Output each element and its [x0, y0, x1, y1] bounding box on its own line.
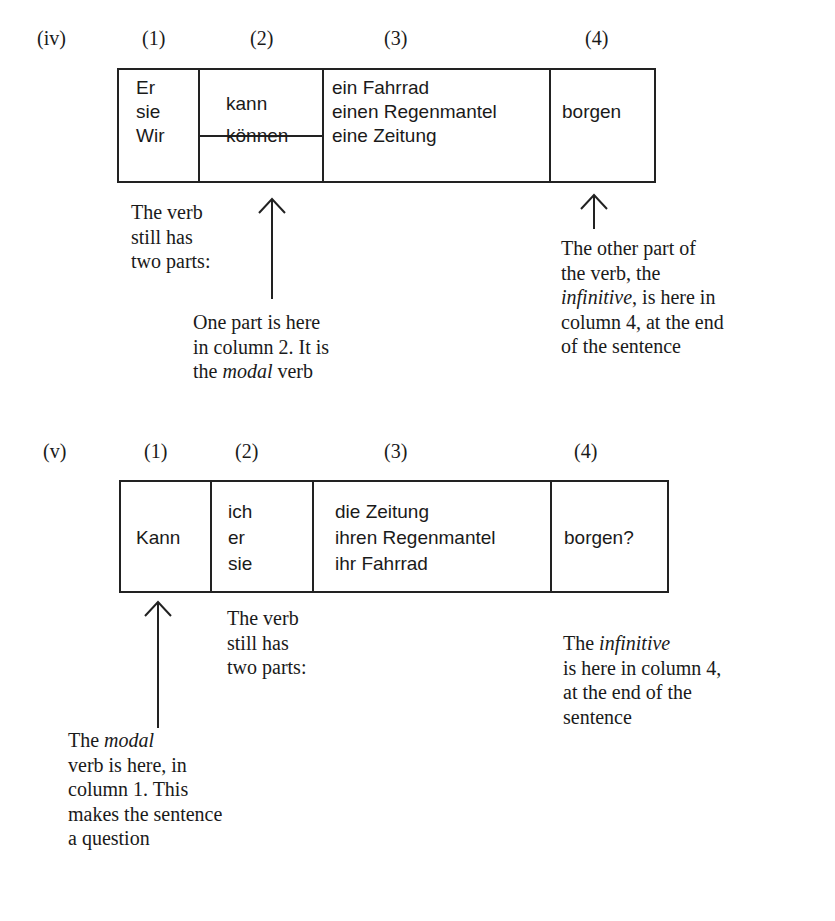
modal-kann: kann	[226, 92, 267, 115]
subject-wir: Wir	[136, 124, 164, 147]
column-divider	[549, 70, 551, 181]
object-regenmantel: einen Regenmantel	[332, 100, 497, 123]
infinitive-borgen: borgen	[562, 100, 621, 123]
note-modal-column-2: One part is here in column 2. It is the …	[193, 310, 329, 384]
column-header-2: (2)	[235, 440, 258, 463]
object-zeitung: die Zeitung	[335, 500, 429, 523]
column-header-4: (4)	[585, 27, 608, 50]
object-regenmantel: ihren Regenmantel	[335, 526, 496, 549]
subject-er: er	[228, 526, 245, 549]
note-infinitive-column-4: The infinitive is here in column 4, at t…	[563, 631, 721, 729]
note-verb-two-parts: The verb still has two parts:	[131, 200, 210, 274]
section-label: (v)	[43, 440, 66, 463]
up-arrow-icon	[258, 197, 286, 302]
column-header-1: (1)	[142, 27, 165, 50]
object-fahrrad: ihr Fahrrad	[335, 552, 428, 575]
note-infinitive-column-4: The other part of the verb, the infiniti…	[561, 236, 724, 359]
object-zeitung: eine Zeitung	[332, 124, 437, 147]
modal-koennen: können	[226, 124, 288, 147]
section-label: (iv)	[37, 27, 66, 50]
column-divider	[198, 70, 200, 181]
subject-ich: ich	[228, 500, 252, 523]
subject-er: Er	[136, 76, 155, 99]
note-verb-two-parts: The verb still has two parts:	[227, 606, 306, 680]
sentence-table-iv: Er sie Wir kann können ein Fahrrad einen…	[117, 68, 656, 183]
column-divider	[312, 482, 314, 591]
subject-sie: sie	[228, 552, 252, 575]
object-fahrrad: ein Fahrrad	[332, 76, 429, 99]
subject-sie: sie	[136, 100, 160, 123]
column-header-3: (3)	[384, 27, 407, 50]
column-header-4: (4)	[574, 440, 597, 463]
column-divider	[322, 70, 324, 181]
column-divider	[210, 482, 212, 591]
column-header-3: (3)	[384, 440, 407, 463]
sentence-table-v: Kann ich er sie die Zeitung ihren Regenm…	[119, 480, 669, 593]
note-modal-question: The modal verb is here, in column 1. Thi…	[68, 728, 222, 851]
column-header-2: (2)	[250, 27, 273, 50]
infinitive-borgen: borgen?	[564, 526, 634, 549]
column-header-1: (1)	[144, 440, 167, 463]
modal-kann: Kann	[136, 526, 180, 549]
column-divider	[550, 482, 552, 591]
up-arrow-icon	[144, 600, 172, 730]
up-arrow-icon	[580, 193, 608, 231]
